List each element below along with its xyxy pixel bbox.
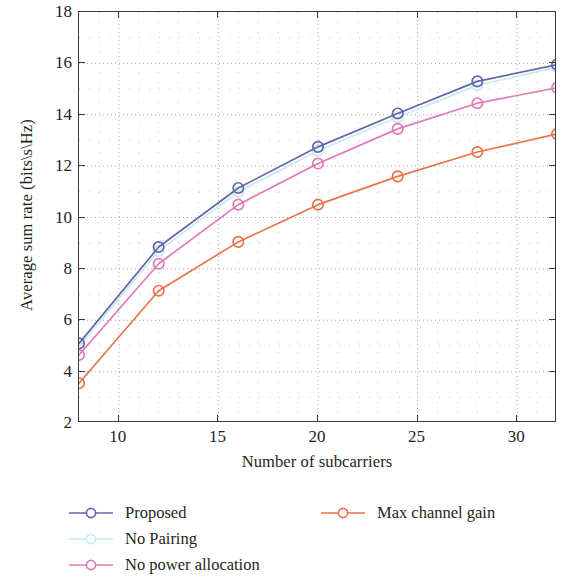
y-tick-mark-right [549, 217, 556, 218]
y-tick-mark [78, 165, 85, 166]
y-tick-mark-right [549, 114, 556, 115]
y-tick-mark [78, 268, 85, 269]
y-tick-label: 4 [12, 362, 72, 379]
legend-marker-icon [68, 531, 114, 547]
y-tick-label: 2 [12, 414, 72, 431]
grid-lines [79, 12, 555, 421]
x-tick-label: 15 [187, 428, 247, 445]
legend-entry[interactable]: Max channel gain [320, 500, 495, 526]
x-tick-label: 30 [486, 428, 546, 445]
y-tick-label: 14 [12, 105, 72, 122]
y-tick-mark [78, 371, 85, 372]
plot-area [78, 11, 556, 422]
legend-marker-icon [68, 557, 114, 573]
legend-marker-icon [68, 505, 114, 521]
x-tick-mark-top [118, 11, 119, 18]
x-tick-label: 20 [287, 428, 347, 445]
y-tick-mark [78, 217, 85, 218]
x-tick-mark-top [516, 11, 517, 18]
y-tick-mark [78, 62, 85, 63]
y-tick-label: 12 [12, 157, 72, 174]
legend-marker-icon [320, 505, 366, 521]
y-tick-label: 6 [12, 311, 72, 328]
y-tick-label: 8 [12, 259, 72, 276]
y-tick-label: 18 [12, 3, 72, 20]
x-tick-mark [217, 415, 218, 422]
y-tick-label: 16 [12, 54, 72, 71]
chart-legend: ProposedNo PairingNo power allocationMax… [68, 500, 548, 580]
x-tick-mark [516, 415, 517, 422]
y-tick-mark-right [549, 62, 556, 63]
y-tick-mark-right [549, 371, 556, 372]
x-tick-label: 25 [387, 428, 447, 445]
legend-label: Max channel gain [377, 505, 495, 522]
legend-label: Proposed [125, 505, 186, 522]
x-tick-mark-top [317, 11, 318, 18]
legend-entry[interactable]: Proposed [68, 500, 186, 526]
x-tick-mark [118, 415, 119, 422]
y-tick-mark-right [549, 319, 556, 320]
y-tick-mark [78, 114, 85, 115]
plot-svg [79, 12, 555, 421]
plot-inner [79, 12, 555, 421]
series-no-pairing [79, 62, 555, 352]
legend-entry[interactable]: No Pairing [68, 526, 197, 552]
x-tick-label: 10 [88, 428, 148, 445]
x-tick-mark-top [217, 11, 218, 18]
y-tick-mark-right [549, 165, 556, 166]
legend-entry[interactable]: No power allocation [68, 552, 260, 578]
x-tick-mark-top [417, 11, 418, 18]
series-max-channel-gain [79, 129, 555, 389]
chart-figure: Average sum rate (bits\s\Hz) 24681012141… [0, 0, 569, 584]
series-no-power-allocation [79, 83, 555, 361]
legend-label: No power allocation [125, 557, 260, 574]
x-axis-label: Number of subcarriers [78, 452, 556, 472]
y-tick-mark [78, 319, 85, 320]
x-tick-mark [317, 415, 318, 422]
x-tick-mark [417, 415, 418, 422]
y-tick-label: 10 [12, 208, 72, 225]
y-tick-mark-right [549, 268, 556, 269]
legend-label: No Pairing [125, 531, 197, 548]
